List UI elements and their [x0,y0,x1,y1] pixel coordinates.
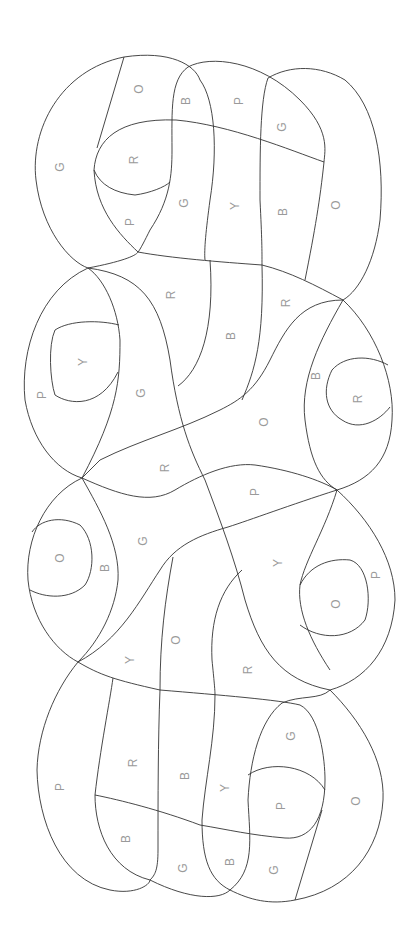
region-letter: P [229,91,249,111]
region-letter: B [306,366,326,386]
region-letter: R [123,753,143,773]
region-letter: P [120,212,140,232]
region-letter: R [161,285,181,305]
region-letter: G [133,531,153,551]
region-letter: R [238,660,258,680]
region-letter: G [173,858,193,878]
region-letter: P [366,565,386,585]
region-letter: B [175,766,195,786]
region-letter: B [95,558,115,578]
region-letter: G [272,117,292,137]
region-letter: B [220,852,240,872]
region-letter: P [271,796,291,816]
region-letter: Y [120,650,140,670]
region-letter: P [32,385,52,405]
region-letter: O [326,594,346,614]
region-letter: R [276,293,296,313]
region-letter: O [50,548,70,568]
region-letter: R [124,150,144,170]
region-letter: R [348,389,368,409]
region-letter: B [221,326,241,346]
region-outline [35,57,324,268]
region-letter: O [129,79,149,99]
region-letter: Y [268,553,288,573]
region-letter: O [326,195,346,215]
region-letter: Y [225,196,245,216]
region-letter: B [176,91,196,111]
region-letter: Y [215,778,235,798]
region-letter: G [131,383,151,403]
region-letter: O [254,412,274,432]
region-letter: B [116,829,136,849]
region-letter: G [174,193,194,213]
region-letter: O [346,791,366,811]
region-letter: P [50,777,70,797]
region-letter: B [273,202,293,222]
region-letter: G [281,726,301,746]
region-letter: Y [73,352,93,372]
region-letter: G [50,157,70,177]
region-letter: G [264,860,284,880]
region-letter: O [166,630,186,650]
region-letter: P [245,482,265,502]
region-letter: R [155,458,175,478]
